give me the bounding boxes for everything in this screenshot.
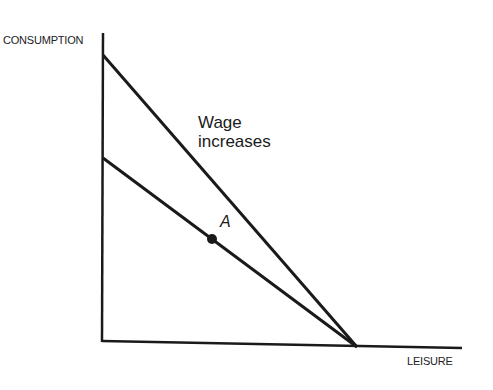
y-axis <box>102 33 103 342</box>
point-a-marker <box>207 234 217 244</box>
higher-wage-budget-line <box>103 55 357 347</box>
point-a-label: A <box>220 213 231 231</box>
annotation-increases: increases <box>198 132 271 151</box>
budget-constraint-diagram <box>0 0 493 390</box>
y-axis-label: CONSUMPTION <box>3 34 83 46</box>
x-axis <box>102 341 462 348</box>
x-axis-label: LEISURE <box>407 355 453 367</box>
annotation-wage: Wage <box>198 113 242 132</box>
original-budget-line <box>103 158 357 347</box>
